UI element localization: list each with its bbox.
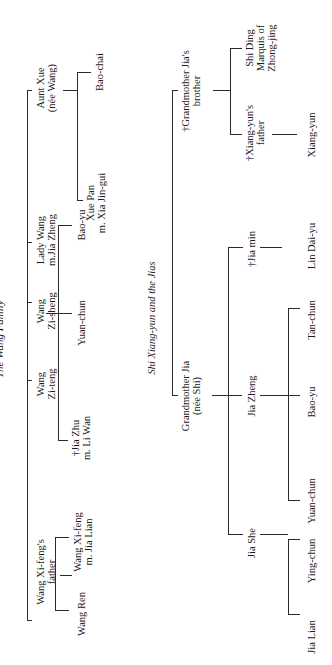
- jia-min-link: [260, 247, 282, 248]
- tan-chun-node: Tan-chun: [306, 292, 317, 348]
- gm-children-line: [228, 247, 229, 535]
- xiang-yun-link: [272, 134, 297, 135]
- wang-spine-line: [27, 90, 28, 621]
- tick-gm-brother: [172, 90, 178, 91]
- yuan-chun-wang-node: Yuan-chun: [76, 293, 87, 353]
- tick-wang-zi-teng: [27, 380, 32, 381]
- xi-feng-children-line: [55, 537, 56, 611]
- tick-grandmother-jia: [172, 395, 178, 396]
- bao-chai-node: Bao-chai: [94, 47, 105, 97]
- ying-chun-node: Ying-chun: [306, 532, 317, 590]
- wang-zi-teng-node: Wang Zi-teng: [35, 360, 57, 408]
- tick-bao-chai: [77, 72, 91, 73]
- xiang-yun-father-node: †Xiang-yun's father: [244, 96, 266, 170]
- jia-she-node: Jia She: [246, 520, 257, 566]
- xue-pan-node: Xue Pan m. Xia Jin-gui: [85, 163, 107, 243]
- tick-wang-xi-feng: [55, 537, 69, 538]
- shi-jia-title: Shi Xiang-yun and the Jias: [146, 248, 157, 388]
- tick-wang-ren: [55, 610, 69, 611]
- aunt-xue-link: [63, 90, 78, 91]
- jia-lian-node: Jia Lian: [306, 612, 317, 662]
- xue-children-line: [77, 72, 78, 201]
- shi-ding-node: Shi Ding Marquis of Zhong-jing: [244, 4, 277, 92]
- brother-children-line: [230, 48, 231, 135]
- she-children-line: [288, 539, 289, 615]
- grandmother-jia-link: [212, 395, 229, 396]
- bao-yu-wang-node: Bao-yu: [76, 203, 87, 247]
- tick-jia-lian: [288, 614, 300, 615]
- tick-bao-yu-wang: [58, 225, 72, 226]
- tick-lady-wang: [27, 242, 32, 243]
- zheng-children-line: [288, 308, 289, 500]
- lady-wang-node: Lady Wang m.Jia Zheng: [35, 212, 57, 268]
- shi-spine-line: [172, 90, 173, 396]
- wang-ren-node: Wang Ren: [76, 586, 87, 642]
- wang-xi-feng-father-node: Wang Xi-feng's father: [35, 529, 57, 615]
- xi-feng-father-link: [60, 575, 72, 576]
- tick-ying-chun: [288, 539, 300, 540]
- tick-jia-zheng: [228, 395, 242, 396]
- wang-zi-sheng-node: Wang Zi-sheng: [35, 284, 57, 338]
- jia-min-node: †Jia min: [246, 222, 257, 276]
- tick-yuan-chun: [288, 500, 300, 501]
- wang-family-title: The Wang Family: [0, 300, 5, 378]
- lin-dai-yu-node: Lin Dai-yu: [306, 215, 317, 277]
- tick-shi-ding: [230, 48, 242, 49]
- tick-aunt-xue: [27, 90, 32, 91]
- tick-xue-pan: [77, 200, 83, 201]
- gm-brother-link: [213, 90, 230, 91]
- tick-jia-she: [228, 534, 243, 535]
- tick-tan-chun: [288, 308, 300, 309]
- jia-zheng-node: Jia Zheng: [246, 364, 257, 428]
- jia-zheng-link: [260, 395, 288, 396]
- tick-xiang-yun-father: [230, 134, 242, 135]
- grandmother-jia-node: Grandmother Jia (née Shi): [180, 352, 202, 440]
- wang-xi-feng-node: Wang Xi-feng m. Jia Lian: [72, 502, 94, 582]
- tick-jia-zhu: [58, 440, 68, 441]
- bao-yu-node: Bao-yu: [306, 380, 317, 424]
- tick-jia-min: [228, 247, 243, 248]
- aunt-xue-node: Aunt Xue (née Wang): [35, 58, 57, 118]
- xiang-yun-node: Xiang-yun: [306, 104, 317, 166]
- yuan-chun-node: Yuan-chun: [306, 472, 317, 530]
- lady-wang-children-line: [58, 225, 59, 440]
- jia-zhu-node: †Jia Zhu m. Li Wan: [70, 406, 92, 470]
- tick-wang-xi-feng-father: [27, 620, 32, 621]
- tick-bao-yu: [288, 395, 300, 396]
- gm-brother-node: †Grandmother Jia's brother: [180, 32, 202, 150]
- jia-she-link: [260, 534, 288, 535]
- tick-wang-zi-sheng: [27, 302, 32, 303]
